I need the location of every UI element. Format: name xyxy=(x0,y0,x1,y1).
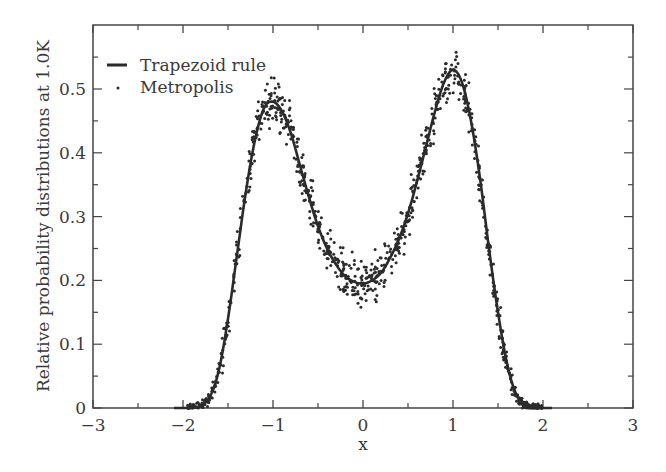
y-axis-ticks: 00.10.20.30.40.5 xyxy=(59,57,633,418)
y-tick-label: 0.5 xyxy=(59,79,86,99)
y-tick-label: 0.4 xyxy=(59,143,86,163)
x-tick-label: 2 xyxy=(538,415,549,435)
x-tick-label: −1 xyxy=(260,415,285,435)
legend: Trapezoid rule Metropolis xyxy=(107,55,266,97)
x-axis-title: x xyxy=(358,434,368,454)
y-tick-label: 0.2 xyxy=(59,270,86,290)
trapezoid-rule-curve xyxy=(174,70,552,408)
x-tick-label: 3 xyxy=(628,415,639,435)
legend-label-metropolis: Metropolis xyxy=(140,77,233,97)
y-tick-label: 0.1 xyxy=(59,334,86,354)
x-tick-label: −3 xyxy=(80,415,105,435)
x-tick-label: 1 xyxy=(448,415,459,435)
legend-label-trapezoid: Trapezoid rule xyxy=(140,55,266,75)
chart: −3−2−10123 00.10.20.30.40.5 Trapezoid ru… xyxy=(0,0,666,472)
x-tick-label: 0 xyxy=(358,415,369,435)
y-tick-label: 0.3 xyxy=(59,207,86,227)
legend-dot-swatch xyxy=(117,87,120,90)
y-tick-label: 0 xyxy=(75,398,86,418)
x-tick-label: −2 xyxy=(170,415,195,435)
y-axis-title: Relative probability distributions at 1.… xyxy=(33,40,53,392)
